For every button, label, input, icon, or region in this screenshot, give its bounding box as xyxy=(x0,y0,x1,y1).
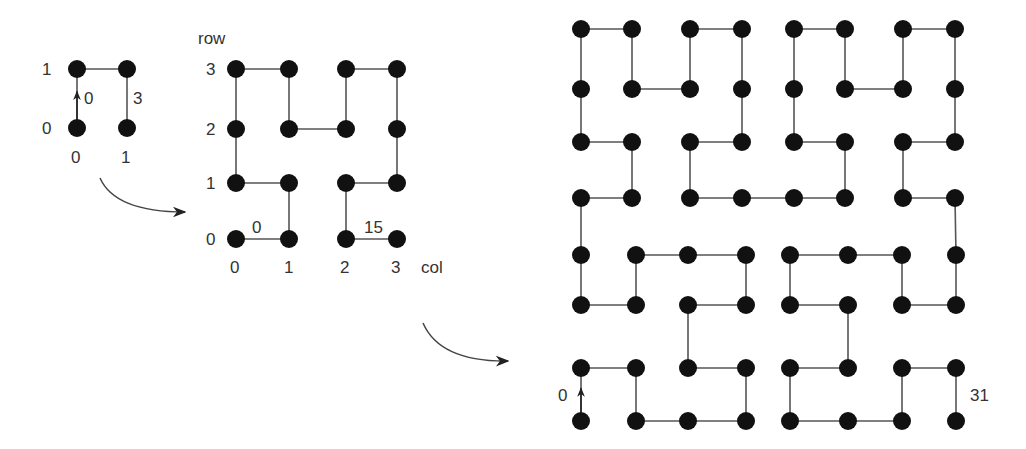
curve-node xyxy=(337,60,355,78)
order1-col-label-0: 0 xyxy=(71,148,80,167)
curve-node xyxy=(946,20,964,38)
curve-node xyxy=(946,133,964,151)
order1-row-label-1: 1 xyxy=(42,60,51,79)
curve-node xyxy=(572,296,590,314)
curve-node xyxy=(227,174,245,192)
curve-node xyxy=(68,60,86,78)
curve-node xyxy=(737,412,755,430)
curve-node xyxy=(280,120,298,138)
curve-node xyxy=(946,80,964,98)
curve-node xyxy=(388,120,406,138)
hilbert-order-1 xyxy=(68,60,136,137)
curve-node xyxy=(623,133,641,151)
order1-col-label-1: 1 xyxy=(121,148,130,167)
curve-node xyxy=(894,20,912,38)
order2-col-label-2: 2 xyxy=(340,258,349,277)
curve-node xyxy=(572,359,590,377)
curve-node xyxy=(737,359,755,377)
curve-node xyxy=(893,246,911,264)
curve-node xyxy=(733,133,751,151)
order2-row-label-2: 2 xyxy=(206,120,215,139)
curve-node xyxy=(781,246,799,264)
curve-node xyxy=(894,133,912,151)
curve-node xyxy=(627,359,645,377)
curve-node xyxy=(839,359,857,377)
curve-node xyxy=(68,119,86,137)
curve-node xyxy=(836,80,854,98)
curve-node xyxy=(947,246,965,264)
order2-axis-col-label: col xyxy=(421,258,443,277)
curve-node xyxy=(679,246,697,264)
order3-end-index-label: 31 xyxy=(970,386,989,405)
curve-node xyxy=(227,120,245,138)
curve-node xyxy=(627,412,645,430)
curve-node xyxy=(733,20,751,38)
hilbert-curve-diagram: 1 0 0 1 0 3 row 3 2 1 0 0 1 2 3 col 0 15… xyxy=(0,0,1026,449)
curve-node xyxy=(627,246,645,264)
curve-node xyxy=(572,20,590,38)
curve-node xyxy=(836,133,854,151)
transition-arrows xyxy=(100,178,508,361)
curved-arrow-icon xyxy=(423,323,508,361)
curve-node xyxy=(836,20,854,38)
order2-row-label-0: 0 xyxy=(206,230,215,249)
curve-node xyxy=(681,189,699,207)
curve-node xyxy=(572,133,590,151)
curve-node xyxy=(894,80,912,98)
curve-node xyxy=(681,133,699,151)
curve-node xyxy=(681,80,699,98)
curve-node xyxy=(946,189,964,207)
curve-node xyxy=(679,412,697,430)
curve-node xyxy=(572,246,590,264)
curve-node xyxy=(118,60,136,78)
curve-node xyxy=(894,189,912,207)
curve-node xyxy=(781,359,799,377)
hilbert-order-3 xyxy=(572,20,965,430)
curve-node xyxy=(733,80,751,98)
curve-node xyxy=(337,230,355,248)
curve-node xyxy=(280,174,298,192)
curve-node xyxy=(623,189,641,207)
curve-node xyxy=(785,80,803,98)
curve-node xyxy=(388,60,406,78)
order2-end-index-label: 15 xyxy=(364,218,383,237)
order2-row-label-1: 1 xyxy=(206,174,215,193)
curve-node xyxy=(947,296,965,314)
curve-node xyxy=(679,296,697,314)
curve-node xyxy=(785,189,803,207)
curve-node xyxy=(227,60,245,78)
curve-node xyxy=(839,412,857,430)
order2-axis-row-label: row xyxy=(198,29,226,48)
curve-node xyxy=(785,20,803,38)
order1-end-index-label: 3 xyxy=(133,89,142,108)
curve-node xyxy=(227,230,245,248)
curve-node xyxy=(572,189,590,207)
curve-node xyxy=(572,80,590,98)
curve-node xyxy=(781,296,799,314)
order3-start-index-label: 0 xyxy=(558,386,567,405)
curve-node xyxy=(337,174,355,192)
curve-node xyxy=(893,412,911,430)
curve-node xyxy=(737,296,755,314)
curve-node xyxy=(737,246,755,264)
curve-node xyxy=(118,119,136,137)
curve-node xyxy=(947,412,965,430)
curve-node xyxy=(280,230,298,248)
curve-node xyxy=(733,189,751,207)
order2-col-label-3: 3 xyxy=(391,258,400,277)
curve-node xyxy=(781,412,799,430)
curve-node xyxy=(893,296,911,314)
curve-node xyxy=(947,359,965,377)
curve-node xyxy=(388,174,406,192)
curve-node xyxy=(679,359,697,377)
curve-node xyxy=(623,80,641,98)
order2-row-label-3: 3 xyxy=(206,60,215,79)
order2-col-label-0: 0 xyxy=(230,258,239,277)
curve-node xyxy=(623,20,641,38)
order1-row-label-0: 0 xyxy=(42,119,51,138)
curve-node xyxy=(337,120,355,138)
curve-node xyxy=(280,60,298,78)
curve-node xyxy=(572,412,590,430)
curve-node xyxy=(836,189,854,207)
curve-node xyxy=(681,20,699,38)
